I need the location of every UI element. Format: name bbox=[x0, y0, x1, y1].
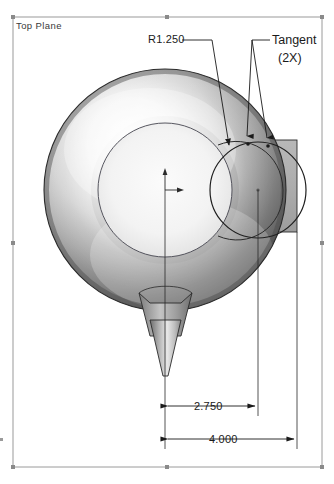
tangent-point-right[interactable] bbox=[266, 144, 270, 148]
tangent-label[interactable]: Tangent bbox=[272, 33, 316, 47]
plane-handle-top-mid[interactable] bbox=[165, 15, 169, 19]
dimension-label-2750[interactable]: 2.750 bbox=[194, 400, 223, 412]
dimension-label-4000[interactable]: 4.000 bbox=[209, 433, 238, 445]
plane-handle-bottom-right[interactable] bbox=[320, 465, 324, 469]
plane-handle-bottom-mid[interactable] bbox=[165, 465, 169, 469]
tangent-point-left[interactable] bbox=[246, 142, 250, 146]
radius-dimension-label[interactable]: R1.250 bbox=[148, 33, 185, 45]
plane-handle-top-left[interactable] bbox=[11, 15, 15, 19]
plane-label[interactable]: Top Plane bbox=[16, 20, 62, 31]
plane-handle-top-right[interactable] bbox=[320, 15, 324, 19]
drawing-canvas bbox=[0, 0, 334, 484]
plane-handle-offscreen bbox=[0, 438, 3, 441]
plane-handle-left-mid[interactable] bbox=[11, 241, 15, 245]
cad-sketch-view: Top Plane R1.250 Tangent (2X) 2.750 4.00… bbox=[0, 0, 334, 484]
tangent-quantity-label[interactable]: (2X) bbox=[278, 51, 302, 65]
plane-handle-bottom-left[interactable] bbox=[11, 465, 15, 469]
plane-handle-right-mid[interactable] bbox=[320, 241, 324, 245]
